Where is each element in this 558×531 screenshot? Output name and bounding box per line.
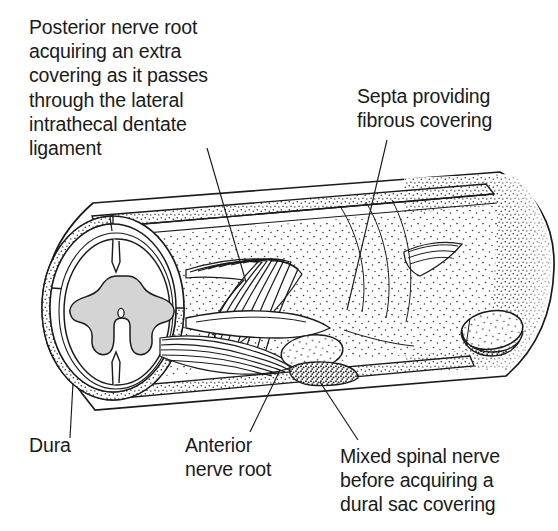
leader-line-dura xyxy=(70,383,73,438)
central-canal xyxy=(118,308,124,317)
label-dura: Dura xyxy=(29,433,71,457)
anatomical-figure: Posterior nerve root acquiring an extra … xyxy=(0,0,558,531)
label-septa: Septa providing fibrous covering xyxy=(357,84,492,132)
label-mixed-spinal-nerve: Mixed spinal nerve before acquiring a du… xyxy=(340,444,500,517)
leader-line-mixed xyxy=(320,382,358,440)
label-anterior-nerve-root: Anterior nerve root xyxy=(185,433,271,481)
label-posterior-nerve-root: Posterior nerve root acquiring an extra … xyxy=(29,15,208,160)
